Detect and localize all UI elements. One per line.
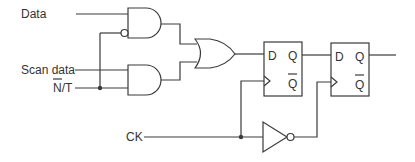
ff2-q-label: Q [355, 50, 364, 64]
ck-to-ff1-wire [241, 81, 264, 137]
ff1-d-label: D [268, 49, 277, 63]
nt-junction-dot [98, 86, 102, 90]
ff2-d-label: D [335, 50, 344, 64]
inverter-bubble [287, 134, 294, 141]
nt-input-label: N/T [53, 81, 73, 95]
and1-to-or-wire [161, 24, 197, 44]
ff1-qbar-label: Q [288, 77, 297, 91]
and-gate-1 [128, 8, 161, 38]
data-input-label: Data [21, 7, 47, 21]
and2-to-or-wire [161, 62, 197, 80]
or-gate [195, 39, 235, 68]
scan-data-input-label: Scan data [21, 63, 75, 77]
inverter-gate [263, 122, 287, 152]
inverter-bubble-and1 [121, 30, 128, 37]
ck-junction-dot [239, 135, 243, 139]
ff2-qbar-label: Q [355, 78, 364, 92]
ck-input-label: CK [126, 130, 143, 144]
ff1-q-label: Q [288, 49, 297, 63]
and-gate-2 [128, 65, 161, 95]
scan-flipflop-diagram: Data Scan data N/T CK D Q Q D Q Q [0, 0, 415, 162]
